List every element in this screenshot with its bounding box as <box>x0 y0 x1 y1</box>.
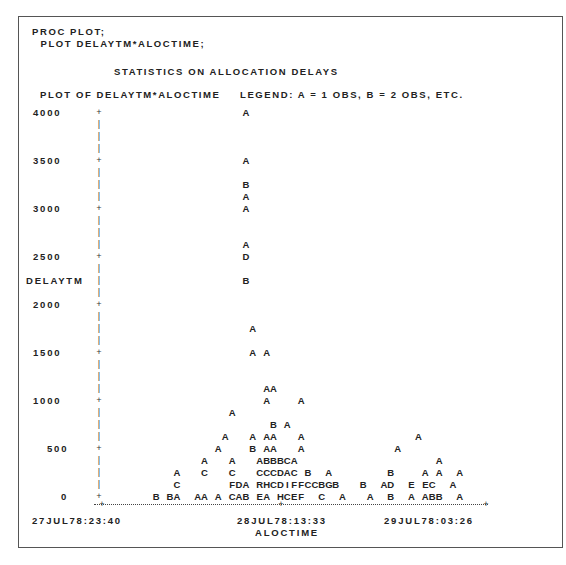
plot-point: B <box>242 179 249 191</box>
plot-point: A <box>249 323 256 335</box>
plot-point: B <box>153 491 160 503</box>
y-axis-bar: | <box>96 431 102 443</box>
plot-point: A <box>242 191 249 203</box>
plot-point: B <box>305 467 312 479</box>
plot-point: A <box>415 431 422 443</box>
plot-point: A <box>325 467 332 479</box>
plot-point: A <box>263 347 270 359</box>
y-tick-2500: 2500 <box>33 251 83 263</box>
y-axis-bar: | <box>96 239 102 251</box>
x-tick-label-3: 29JUL78:03:26 <box>384 515 474 527</box>
plot-point: B <box>270 419 277 431</box>
x-tick-label-2: 28JUL78:13:33 <box>237 515 327 527</box>
y-tick-1000: 1000 <box>33 395 83 407</box>
plot-point: A <box>242 155 249 167</box>
plot-point: E <box>408 479 415 491</box>
y-axis-bar: | <box>96 359 102 371</box>
plot-point: A <box>367 491 374 503</box>
plot-point: C <box>318 491 325 503</box>
plot-point: A <box>249 347 256 359</box>
chart-title: STATISTICS ON ALLOCATION DELAYS <box>114 66 339 78</box>
plot-point: A <box>270 383 277 395</box>
plot-point: A <box>270 431 277 443</box>
plot-point: D <box>387 479 394 491</box>
y-axis-bar: | <box>96 287 102 299</box>
plot-point: B <box>360 479 367 491</box>
y-axis-tick: + <box>96 203 102 215</box>
legend: LEGEND: A = 1 OBS, B = 2 OBS, ETC. <box>240 89 464 101</box>
x-tick-mark-left: + <box>99 499 105 511</box>
plot-point: A <box>215 491 222 503</box>
plot-point: C <box>173 479 180 491</box>
y-axis-bar: | <box>96 335 102 347</box>
plot-point: A <box>270 443 277 455</box>
y-axis-tick: + <box>96 299 102 311</box>
plot-point: A <box>229 407 236 419</box>
plot-point: A <box>298 443 305 455</box>
x-tick-mark-center: + <box>278 499 284 511</box>
y-axis-bar: | <box>96 263 102 275</box>
plot-point: A <box>436 467 443 479</box>
y-axis-bar: | <box>96 275 102 287</box>
plot-point: A <box>242 239 249 251</box>
plot-point: B <box>242 491 249 503</box>
x-tick-label-1: 27JUL78:23:40 <box>32 515 122 527</box>
y-axis-label: DELAYTM <box>26 275 76 287</box>
y-axis-bar: | <box>96 323 102 335</box>
plot-point: B <box>249 443 256 455</box>
plot-point: A <box>201 491 208 503</box>
plot-point: B <box>387 467 394 479</box>
plot-point: A <box>249 431 256 443</box>
code-line-1: PROC PLOT; <box>32 26 106 38</box>
plot-point: A <box>298 395 305 407</box>
plot-point: A <box>298 431 305 443</box>
plot-point: A <box>408 491 415 503</box>
plot-point: B <box>332 479 339 491</box>
y-axis-bar: | <box>96 311 102 323</box>
plot-point: A <box>394 443 401 455</box>
plot-point: A <box>242 107 249 119</box>
y-tick-2000: 2000 <box>33 299 83 311</box>
y-axis-bar: | <box>96 143 102 155</box>
plot-point: A <box>229 455 236 467</box>
plot-point: C <box>291 467 298 479</box>
y-axis-tick: + <box>96 155 102 167</box>
plot-point: A <box>173 467 180 479</box>
y-axis-bar: | <box>96 407 102 419</box>
plot-point: A <box>291 455 298 467</box>
y-axis-bar: | <box>96 419 102 431</box>
y-axis-bar: | <box>96 179 102 191</box>
plot-point: F <box>298 491 305 503</box>
plot-point: A <box>263 491 270 503</box>
plot-point: A <box>456 491 463 503</box>
plot-point: A <box>173 491 180 503</box>
y-tick-1500: 1500 <box>33 347 83 359</box>
plot-point: B <box>436 491 443 503</box>
y-tick-500: 500 <box>47 443 97 455</box>
y-axis-bar: | <box>96 167 102 179</box>
y-tick-4000: 4000 <box>33 107 83 119</box>
y-axis-bar: | <box>96 383 102 395</box>
x-tick-mark-right: + <box>483 499 489 511</box>
plot-point: A <box>222 431 229 443</box>
y-axis-bar: | <box>96 191 102 203</box>
y-axis-bar: | <box>96 119 102 131</box>
y-axis-tick: + <box>96 251 102 263</box>
plot-point: C <box>201 467 208 479</box>
y-axis-tick: + <box>96 347 102 359</box>
y-axis-bar: | <box>96 467 102 479</box>
plot-point: A <box>339 491 346 503</box>
y-axis-bar: | <box>96 227 102 239</box>
plot-point: A <box>201 455 208 467</box>
y-axis-bar: | <box>96 455 102 467</box>
plot-point: A <box>436 455 443 467</box>
plot-point: A <box>449 479 456 491</box>
plot-point: C <box>229 467 236 479</box>
y-axis-tick: + <box>96 107 102 119</box>
plot-point: B <box>242 275 249 287</box>
plot-point: A <box>242 203 249 215</box>
plot-point: A <box>284 419 291 431</box>
y-tick-3500: 3500 <box>33 155 83 167</box>
plot-point: A <box>456 467 463 479</box>
plot-point: D <box>242 251 249 263</box>
